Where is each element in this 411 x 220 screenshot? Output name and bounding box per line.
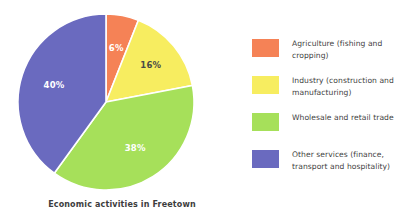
legend-swatch-wholesale [252,113,279,131]
pie-label-wholesale: 38% [125,143,146,153]
chart-caption: Economic activities in Freetown [0,200,244,209]
legend-item-other-services[interactable]: Other services (finance, transport and h… [252,149,411,175]
pie-label-industry: 16% [140,60,161,70]
legend-swatch-industry [252,76,279,94]
legend-label-industry: Industry (construction and manufacturing… [292,75,410,98]
legend-label-other-services: Other services (finance, transport and h… [292,149,410,172]
pie-label-agriculture: 6% [109,43,124,53]
pie-chart-figure: 6%16%38%40% Economic activities in Freet… [0,0,411,220]
legend-item-industry[interactable]: Industry (construction and manufacturing… [252,75,411,101]
chart-legend: Agriculture (fishing and cropping) Indus… [252,38,411,186]
pie-chart-plot-area: 6%16%38%40% [14,8,204,198]
legend-swatch-agriculture [252,39,279,57]
legend-swatch-other-services [252,150,279,168]
pie-slices [18,14,194,190]
legend-item-agriculture[interactable]: Agriculture (fishing and cropping) [252,38,411,64]
legend-label-wholesale: Wholesale and retail trade [292,112,394,124]
legend-label-agriculture: Agriculture (fishing and cropping) [292,38,410,61]
legend-item-wholesale[interactable]: Wholesale and retail trade [252,112,411,138]
pie-label-other-services: 40% [44,80,65,90]
pie-svg: 6%16%38%40% [14,8,204,198]
